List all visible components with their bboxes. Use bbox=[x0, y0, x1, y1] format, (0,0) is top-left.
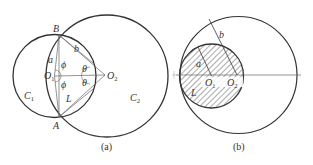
label-o1: O1 bbox=[44, 70, 54, 82]
label-o2: O2 bbox=[107, 70, 117, 82]
label-l: L bbox=[190, 87, 197, 98]
line-a-mid bbox=[59, 89, 93, 117]
label-phi-bottom: ϕ bbox=[61, 79, 66, 90]
label-b-point: B bbox=[53, 23, 59, 34]
label-a-point: A bbox=[52, 120, 60, 131]
caption-a: (a) bbox=[101, 141, 112, 153]
label-c2: C2 bbox=[130, 92, 140, 104]
figure-canvas: B A a b ϕ ϕ θ θ O1 O2 L C1 C2 (a) b a L … bbox=[0, 0, 313, 165]
label-a: a bbox=[196, 58, 201, 69]
label-a: a bbox=[48, 54, 53, 65]
label-l: L bbox=[65, 93, 72, 104]
label-b: b bbox=[74, 43, 79, 54]
caption-b: (b) bbox=[233, 141, 245, 153]
line-o1-o2 bbox=[55, 75, 106, 76]
panel-a: B A a b ϕ ϕ θ θ O1 O2 L C1 C2 (a) bbox=[13, 15, 176, 153]
label-b: b bbox=[219, 29, 224, 40]
label-theta-top: θ bbox=[82, 63, 87, 74]
panel-b: b a L O1 O2 (b) bbox=[176, 17, 301, 154]
label-phi-top: ϕ bbox=[61, 59, 66, 70]
tick-mark bbox=[172, 71, 176, 79]
label-c1: C1 bbox=[24, 90, 34, 102]
label-theta-bottom: θ bbox=[82, 77, 87, 88]
